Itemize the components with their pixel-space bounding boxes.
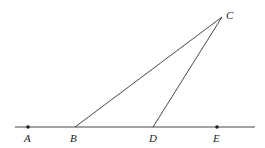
geometry-diagram: A B C D E [0,0,265,148]
segment-DC [153,17,222,127]
label-C: C [226,9,234,21]
point-A-dot [26,125,30,129]
label-E: E [212,132,220,144]
point-E-dot [215,125,219,129]
label-A: A [23,132,31,144]
segment-BC [75,17,222,127]
label-B: B [70,132,77,144]
diagram-canvas: A B C D E [0,0,265,148]
label-D: D [148,132,157,144]
